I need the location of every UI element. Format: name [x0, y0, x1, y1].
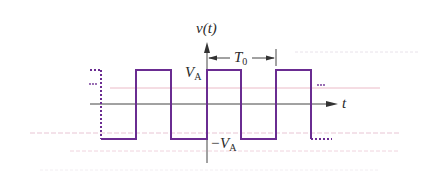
axis-arrow-icon — [204, 42, 210, 53]
y-axis-label: v(t) — [196, 21, 217, 36]
high-level-symbol: V — [185, 64, 194, 80]
arrow-left-icon — [208, 56, 217, 61]
low-level-label: −VA — [210, 136, 237, 151]
high-level-subscript: A — [194, 71, 201, 82]
arrow-right-icon — [266, 56, 275, 61]
low-level-symbol: −V — [210, 135, 229, 151]
x-axis-label: t — [342, 96, 346, 111]
square-wave-figure: v(t) t VA −VA T0 — [0, 0, 430, 181]
time-axis — [90, 101, 338, 107]
high-level-label: VA — [185, 65, 201, 80]
low-level-subscript: A — [229, 142, 236, 153]
period-subscript: 0 — [242, 56, 247, 67]
period-label: T0 — [233, 50, 248, 65]
axis-arrow-icon — [326, 101, 338, 107]
